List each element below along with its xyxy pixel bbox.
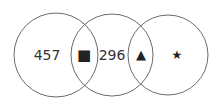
star-icon: ★	[169, 46, 185, 64]
left-only-value: 457	[30, 46, 64, 64]
middle-only-value: 296	[96, 46, 128, 64]
square-icon: ■	[76, 46, 92, 64]
triangle-icon: ▲	[133, 46, 149, 64]
